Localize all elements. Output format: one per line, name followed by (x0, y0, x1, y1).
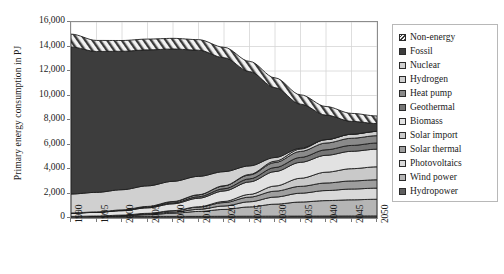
legend-item-label: Fossil (410, 46, 433, 57)
x-axis-tick-mark (70, 218, 71, 222)
legend-item-label: Heat pump (410, 88, 452, 99)
legend-swatch-icon (399, 118, 406, 125)
legend-item[interactable]: Non-energy (399, 30, 494, 44)
legend-item[interactable]: Hydropower (399, 184, 494, 198)
legend-item[interactable]: Fossil (399, 44, 494, 58)
legend-swatch-icon (399, 48, 406, 55)
x-axis-tick-mark (376, 218, 377, 222)
legend-swatch-icon (399, 90, 406, 97)
legend-item[interactable]: Geothermal (399, 100, 494, 114)
legend-item-label: Biomass (410, 116, 443, 127)
plot-area (70, 21, 378, 219)
x-axis-tick-label: 2045 (355, 205, 365, 223)
legend-item-label: Solar import (410, 130, 458, 141)
legend-item-label: Wind power (410, 172, 457, 183)
x-axis-tick-label: 2025 (253, 205, 263, 223)
legend-swatch-icon (399, 188, 406, 195)
x-axis-tick-label: 2030 (278, 205, 288, 223)
legend-swatch-icon (399, 62, 406, 69)
legend-item-label: Hydropower (410, 186, 458, 197)
legend-swatch-icon (399, 174, 406, 181)
y-axis-tick-label: 12,000 (6, 64, 65, 74)
legend-item[interactable]: Solar thermal (399, 142, 494, 156)
legend-item-label: Hydrogen (410, 74, 448, 85)
legend-item-label: Photovoltaics (410, 158, 462, 169)
stacked-area-chart-figure: Primary energy consumption in PJ 16,0001… (0, 0, 504, 274)
x-axis-tick-mark (172, 218, 173, 222)
x-axis-tick-label: 2020 (227, 205, 237, 223)
x-axis-tick-mark (147, 218, 148, 222)
x-axis-tick-label: 1995 (100, 205, 110, 223)
stacked-area-plot (71, 22, 377, 218)
x-axis-tick-label: 2040 (329, 205, 339, 223)
legend-item-label: Geothermal (410, 102, 455, 113)
legend-item[interactable]: Solar import (399, 128, 494, 142)
x-axis-tick-label: 1990 (74, 205, 84, 223)
x-axis-tick-mark (274, 218, 275, 222)
x-axis-tick-mark (223, 218, 224, 222)
x-axis-tick-mark (198, 218, 199, 222)
legend-swatch-icon (399, 104, 406, 111)
legend-item-label: Non-energy (410, 32, 455, 43)
x-axis-tick-label: 2000 (125, 205, 135, 223)
y-axis-tick-label: 0 (6, 211, 65, 221)
x-axis-tick-label: 2050 (380, 205, 390, 223)
legend-swatch-icon (399, 132, 406, 139)
legend-swatch-icon (399, 76, 406, 83)
y-axis-tick-label: 10,000 (6, 89, 65, 99)
x-axis-tick-mark (96, 218, 97, 222)
x-axis-tick-label: 2010 (176, 205, 186, 223)
y-axis-tick-label: 8,000 (6, 113, 65, 123)
area-bands (71, 34, 377, 218)
legend-item[interactable]: Nuclear (399, 58, 494, 72)
legend-swatch-icon (399, 34, 406, 41)
x-axis-tick-mark (249, 218, 250, 222)
y-axis-tick-label: 16,000 (6, 15, 65, 25)
y-axis-tick-label: 2,000 (6, 187, 65, 197)
legend-item-label: Nuclear (410, 60, 440, 71)
legend-item-label: Solar thermal (410, 144, 461, 155)
legend-item[interactable]: Biomass (399, 114, 494, 128)
legend-swatch-icon (399, 160, 406, 167)
x-axis-tick-mark (300, 218, 301, 222)
y-axis-tick-label: 6,000 (6, 138, 65, 148)
legend-item[interactable]: Hydrogen (399, 72, 494, 86)
y-axis-tick-label: 4,000 (6, 162, 65, 172)
legend-swatch-icon (399, 146, 406, 153)
legend-item[interactable]: Photovoltaics (399, 156, 494, 170)
legend-item[interactable]: Heat pump (399, 86, 494, 100)
x-axis-tick-mark (351, 218, 352, 222)
x-axis-tick-mark (121, 218, 122, 222)
x-axis-tick-label: 2005 (151, 205, 161, 223)
y-axis-tick-label: 14,000 (6, 40, 65, 50)
x-axis-tick-mark (325, 218, 326, 222)
legend-item[interactable]: Wind power (399, 170, 494, 184)
chart-legend: Non-energyFossilNuclearHydrogenHeat pump… (392, 24, 498, 202)
x-axis-tick-label: 2015 (202, 205, 212, 223)
x-axis-tick-label: 2035 (304, 205, 314, 223)
